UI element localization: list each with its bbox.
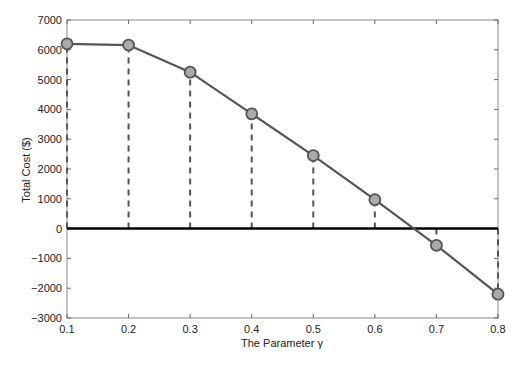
dashed-stems xyxy=(67,44,498,294)
y-tick-label: 4000 xyxy=(38,103,62,115)
x-axis-label: The Parameter γ xyxy=(241,337,323,349)
x-axis-ticks: 0.10.20.30.40.50.60.70.8 xyxy=(59,20,505,335)
plot-border xyxy=(67,20,498,318)
x-tick-label: 0.8 xyxy=(490,323,505,335)
y-axis-ticks: −3000−2000−10000100020003000400050006000… xyxy=(31,14,498,324)
data-point xyxy=(62,38,73,49)
data-point xyxy=(246,108,257,119)
y-tick-label: 2000 xyxy=(38,163,62,175)
data-point xyxy=(369,194,380,205)
x-tick-label: 0.2 xyxy=(121,323,136,335)
y-tick-label: 5000 xyxy=(38,74,62,86)
plot-frame xyxy=(67,20,498,318)
data-point xyxy=(123,40,134,51)
data-point xyxy=(493,289,504,300)
x-tick-label: 0.3 xyxy=(182,323,197,335)
y-tick-label: −2000 xyxy=(31,282,62,294)
x-tick-label: 0.7 xyxy=(429,323,444,335)
y-axis-label: Total Cost ($) xyxy=(20,137,32,202)
y-tick-label: 3000 xyxy=(38,133,62,145)
x-tick-label: 0.6 xyxy=(367,323,382,335)
y-tick-label: 6000 xyxy=(38,44,62,56)
x-tick-label: 0.5 xyxy=(306,323,321,335)
data-point xyxy=(185,67,196,78)
data-point xyxy=(308,150,319,161)
y-tick-label: −3000 xyxy=(31,312,62,324)
y-tick-label: 7000 xyxy=(38,14,62,26)
y-tick-label: 1000 xyxy=(38,193,62,205)
x-tick-label: 0.1 xyxy=(59,323,74,335)
y-tick-label: 0 xyxy=(56,223,62,235)
line-chart: −3000−2000−10000100020003000400050006000… xyxy=(0,0,523,366)
series-line xyxy=(67,44,498,294)
x-tick-label: 0.4 xyxy=(244,323,259,335)
data-point xyxy=(431,240,442,251)
y-tick-label: −1000 xyxy=(31,252,62,264)
